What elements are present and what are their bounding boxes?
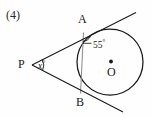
item-number-label: (4) (6, 9, 20, 21)
degree-symbol-55: ° (103, 38, 106, 46)
angle-label-x-degrees: x° (38, 60, 45, 72)
center-label-o: O (107, 66, 116, 78)
point-label-a: A (78, 13, 87, 25)
degree-symbol-x: ° (42, 59, 45, 67)
geometry-figure: (4) A B P O 55° x° (0, 0, 153, 118)
point-label-p: P (18, 58, 25, 70)
angle-55-value: 55 (93, 40, 103, 50)
angle-label-55-degrees: 55° (93, 39, 105, 51)
point-label-b: B (76, 96, 84, 108)
center-point-dot (109, 60, 113, 64)
